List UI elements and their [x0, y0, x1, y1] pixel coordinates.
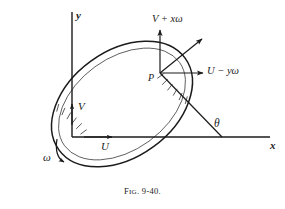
figure-container: y x V U V + xω U − yω P θ ω FIG. 9-40.: [0, 0, 285, 209]
angular-velocity-label: ω: [43, 152, 51, 163]
point-p-label: P: [148, 73, 154, 83]
point-velocity-vertical-label: V + xω: [152, 14, 183, 25]
point-velocity-horizontal-label: U − yω: [207, 66, 239, 77]
origin-velocity-v-label: V: [78, 101, 85, 112]
origin-velocity-u-label: U: [101, 141, 109, 152]
figure-caption: FIG. 9-40.: [0, 186, 285, 196]
lamina-outline: [28, 15, 217, 192]
theta-radius-line: [160, 73, 222, 137]
figure-caption-smallcaps: IG: [129, 188, 137, 196]
x-axis-label: x: [270, 140, 276, 151]
figure-drawing-canvas: [0, 0, 285, 209]
theta-angle-label: θ: [214, 118, 220, 130]
y-axis-label: y: [76, 10, 81, 21]
figure-caption-number: . 9-40.: [137, 186, 161, 196]
lamina-hatching: [0, 0, 285, 209]
